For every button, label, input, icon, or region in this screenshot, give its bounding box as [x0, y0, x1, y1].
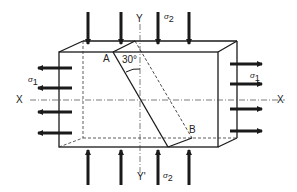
angle-label: 30°	[122, 55, 137, 65]
point-a-label: A	[103, 54, 110, 64]
sigma1-right-label: σ1	[250, 70, 260, 80]
block-hidden-edges	[59, 41, 237, 147]
sigma1-left-label: σ1	[28, 74, 38, 84]
block-back-edges	[59, 41, 237, 147]
point-b-label: B	[189, 125, 196, 135]
sigma2-bottom-label: σ2	[163, 170, 173, 180]
sigma2-top-label: σ2	[164, 11, 174, 21]
y-prime-axis-label: Y'	[137, 172, 146, 182]
y-axis-label: Y	[136, 14, 143, 24]
x-axis-left-label: X	[16, 95, 23, 105]
stress-block-diagram	[0, 0, 297, 192]
sigma1-left-arrows	[38, 68, 72, 133]
x-axis-right-label: X	[277, 95, 284, 105]
